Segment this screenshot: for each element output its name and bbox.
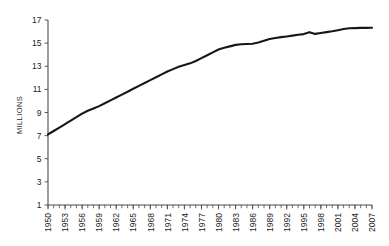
y-tick-label: 15: [32, 38, 42, 48]
x-tick-label: 1950: [43, 213, 53, 232]
y-axis-title-group: MILLIONS: [15, 96, 24, 134]
x-tick-label: 1965: [128, 213, 138, 232]
y-axis-ticks: 1357911131517: [32, 15, 48, 210]
x-tick-label: 1956: [77, 213, 87, 232]
x-tick-label: 1971: [163, 213, 173, 232]
y-tick-label: 9: [37, 108, 42, 118]
chart-container: MILLIONS 1357911131517 19501953195619591…: [0, 0, 389, 246]
x-tick-label: 1983: [231, 213, 241, 232]
y-axis-title: MILLIONS: [15, 96, 24, 134]
x-tick-label: 1953: [60, 213, 70, 232]
x-tick-label: 1998: [316, 213, 326, 232]
x-tick-label: 1977: [197, 213, 207, 232]
x-tick-label: 1962: [111, 213, 121, 232]
y-tick-label: 3: [37, 177, 42, 187]
y-tick-label: 17: [32, 15, 42, 25]
x-tick-label: 2007: [367, 213, 377, 232]
x-tick-label: 1989: [265, 213, 275, 232]
y-tick-label: 11: [33, 84, 42, 94]
y-tick-label: 5: [37, 154, 42, 164]
x-tick-label: 1959: [94, 213, 104, 232]
x-axis-ticks: 1950195319561959196219651968197119741977…: [43, 205, 377, 232]
x-tick-label: 1974: [180, 213, 190, 232]
data-series-line: [48, 28, 372, 135]
y-tick-label: 13: [32, 61, 42, 71]
x-tick-label: 2004: [350, 213, 360, 232]
line-chart: MILLIONS 1357911131517 19501953195619591…: [0, 0, 389, 246]
x-tick-label: 2001: [333, 213, 343, 232]
y-tick-label: 7: [37, 131, 42, 141]
x-tick-label: 1968: [146, 213, 156, 232]
y-tick-label: 1: [37, 200, 42, 210]
x-tick-label: 1992: [282, 213, 292, 232]
x-tick-label: 1980: [214, 213, 224, 232]
x-tick-label: 1995: [299, 213, 309, 232]
x-tick-label: 1986: [248, 213, 258, 232]
